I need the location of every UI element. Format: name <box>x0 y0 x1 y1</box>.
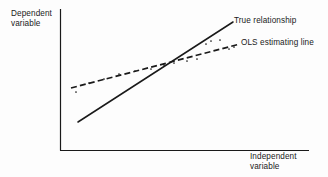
scatter-point <box>233 46 235 48</box>
scatter-point <box>219 39 221 41</box>
ols-estimating-line <box>71 44 240 88</box>
scatter-plot-figure: Dependent variable Independent variable … <box>0 0 328 177</box>
ols-estimating-line-label: OLS estimating line <box>241 38 314 47</box>
true-relationship-line <box>78 22 233 122</box>
scatter-point <box>210 40 212 42</box>
y-axis-label: Dependent variable <box>11 9 52 28</box>
scatter-point <box>196 58 198 60</box>
scatter-point <box>88 82 90 84</box>
scatter-point <box>228 48 230 50</box>
scatter-point <box>150 68 152 70</box>
scatter-point <box>186 60 188 62</box>
x-axis-label: Independent variable <box>250 152 297 171</box>
scatter-point <box>205 43 207 45</box>
scatter-point <box>75 91 77 93</box>
scatter-point <box>134 70 136 72</box>
scatter-point <box>173 62 175 64</box>
true-relationship-label: True relationship <box>234 16 296 25</box>
scatter-point <box>103 78 105 80</box>
scatter-point <box>163 64 165 66</box>
scatter-point <box>118 73 120 75</box>
